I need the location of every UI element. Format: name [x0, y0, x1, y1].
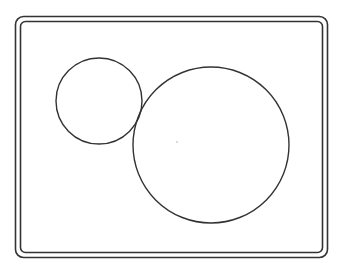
large-circle: [133, 67, 289, 223]
center-dot: [176, 141, 178, 143]
inner-frame: [21, 22, 323, 253]
diagram-svg: [0, 0, 343, 269]
diagram-canvas: [0, 0, 343, 269]
outer-frame: [16, 17, 328, 258]
small-circle: [56, 58, 142, 144]
